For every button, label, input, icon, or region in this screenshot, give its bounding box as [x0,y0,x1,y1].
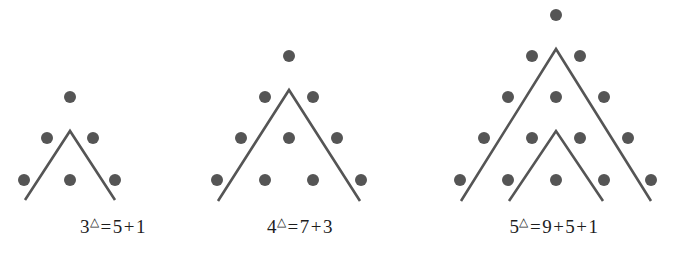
dot [550,174,562,186]
figure-panel-3: 5△=9+5+1 [430,0,678,255]
caption-term-3-2: 1 [589,216,599,237]
dot [64,174,76,186]
dot [550,91,562,103]
dot-diagram-3 [430,0,678,215]
caption-equals-3: = [529,216,542,237]
caption-term-1-1: 1 [136,216,146,237]
caption-term-2-0: 7 [300,216,310,237]
caption-operator-2-0: + [310,216,323,237]
caption-term-2-1: 3 [323,216,333,237]
dot [574,50,586,62]
dot [331,132,343,144]
triangular-number-figure: 3△=5+1 4△=7+3 5△=9+5+1 [0,0,678,255]
dot [622,132,634,144]
dot [645,174,657,186]
dot-diagram-2 [190,0,410,215]
dot [526,50,538,62]
caption-2: 4△=7+3 [190,216,410,238]
dot [454,174,466,186]
dot [478,132,490,144]
chevron-line [218,90,360,201]
caption-base-2: 4 [267,216,277,237]
caption-3: 5△=9+5+1 [430,216,678,238]
dot [598,174,610,186]
dot [598,91,610,103]
dot [283,132,295,144]
dot [574,132,586,144]
dot [235,132,247,144]
dot [109,174,121,186]
caption-operator-3-1: + [575,216,588,237]
dot [526,132,538,144]
caption-base-1: 3 [80,216,90,237]
dot [307,91,319,103]
caption-term-3-0: 9 [542,216,552,237]
dot [307,174,319,186]
caption-equals-2: = [287,216,300,237]
dot [18,174,30,186]
triangle-exponent-icon-1: △ [90,215,100,229]
dot [355,174,367,186]
dot [259,91,271,103]
dot [550,9,562,21]
chevron-line [509,131,603,201]
figure-panel-2: 4△=7+3 [190,0,410,255]
dot [283,50,295,62]
dot [87,132,99,144]
caption-operator-3-0: + [552,216,565,237]
dot [41,132,53,144]
caption-term-1-0: 5 [113,216,123,237]
caption-term-3-1: 5 [565,216,575,237]
chevron-line [25,131,115,200]
caption-base-3: 5 [509,216,519,237]
caption-equals-1: = [100,216,113,237]
dot [259,174,271,186]
dot [502,91,514,103]
triangle-exponent-icon-2: △ [277,215,287,229]
dot [64,91,76,103]
caption-operator-1-0: + [123,216,136,237]
dot [502,174,514,186]
dot [211,174,223,186]
triangle-exponent-icon-3: △ [519,215,529,229]
